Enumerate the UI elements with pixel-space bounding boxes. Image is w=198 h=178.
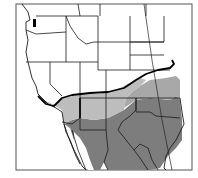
range-map	[0, 0, 198, 178]
puget-sound	[33, 19, 36, 27]
